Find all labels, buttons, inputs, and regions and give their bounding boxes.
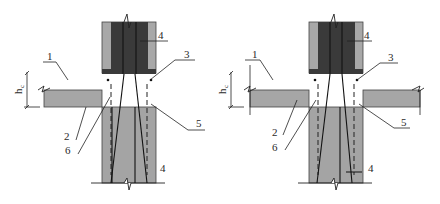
dim-subscript: c <box>222 85 230 88</box>
dim-subscript: c <box>18 85 26 88</box>
anchor-dot <box>107 79 110 82</box>
panel-right: h c 1 2 6 3 5 4 4 <box>216 14 424 190</box>
slab-right <box>363 86 424 115</box>
upper-column <box>309 14 363 74</box>
slab <box>38 86 102 107</box>
lower-column <box>91 107 165 190</box>
joint-detail-diagram: h c 1 2 6 3 5 4 4 <box>0 0 440 204</box>
lower-column <box>298 107 372 190</box>
slab-left <box>244 65 309 115</box>
label-4-bottom: 4 <box>160 162 166 174</box>
upper-column <box>102 14 156 74</box>
panel-left: h c 1 2 6 3 5 4 4 <box>12 14 205 190</box>
label-3: 3 <box>184 48 190 60</box>
label-1: 1 <box>47 50 53 62</box>
label-6: 6 <box>65 144 71 156</box>
label-4-top: 4 <box>158 29 164 41</box>
dimension-hc <box>228 71 244 109</box>
label-5: 5 <box>196 117 202 129</box>
anchor-dot <box>314 79 317 82</box>
dimension-hc <box>24 71 40 109</box>
label-2: 2 <box>64 130 70 142</box>
label-4-top: 4 <box>364 29 370 41</box>
label-2: 2 <box>272 126 278 138</box>
label-4-bottom: 4 <box>368 162 374 174</box>
label-5: 5 <box>401 116 407 128</box>
label-6: 6 <box>272 141 278 153</box>
label-1: 1 <box>252 48 258 60</box>
label-3: 3 <box>388 51 394 63</box>
